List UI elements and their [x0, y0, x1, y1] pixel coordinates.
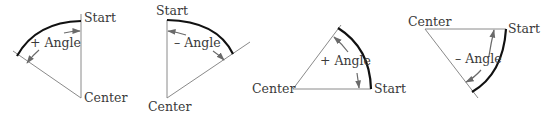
angle-direction-diagram: Start Center + Angle Start Center – Angl…	[0, 0, 546, 114]
diagram-4: Center Start – Angle	[408, 14, 540, 98]
center-label: Center	[408, 14, 451, 29]
start-label: Start	[508, 21, 540, 36]
arrow-start-icon	[64, 31, 80, 33]
arrow-end-icon	[27, 50, 39, 63]
arrow-end-icon	[334, 37, 348, 52]
arrow-start-icon	[357, 73, 359, 88]
angle-label: + Angle	[320, 53, 371, 68]
end-radius-line	[167, 42, 250, 98]
diagram-1: Start Center + Angle	[13, 10, 127, 105]
arrow-end-icon	[213, 51, 224, 60]
end-radius-line	[13, 51, 81, 98]
diagram-3: Center Start + Angle	[252, 25, 406, 96]
angle-label: + Angle	[30, 35, 81, 50]
start-label: Start	[156, 3, 188, 18]
center-label: Center	[148, 99, 191, 114]
center-label: Center	[84, 90, 127, 105]
angle-label: – Angle	[174, 35, 221, 50]
angle-label: – Angle	[455, 51, 502, 66]
start-label: Start	[84, 10, 116, 25]
arrow-end-icon	[466, 70, 481, 82]
diagram-2: Start Center – Angle	[148, 3, 250, 114]
start-label: Start	[374, 81, 406, 96]
center-label: Center	[252, 81, 295, 96]
